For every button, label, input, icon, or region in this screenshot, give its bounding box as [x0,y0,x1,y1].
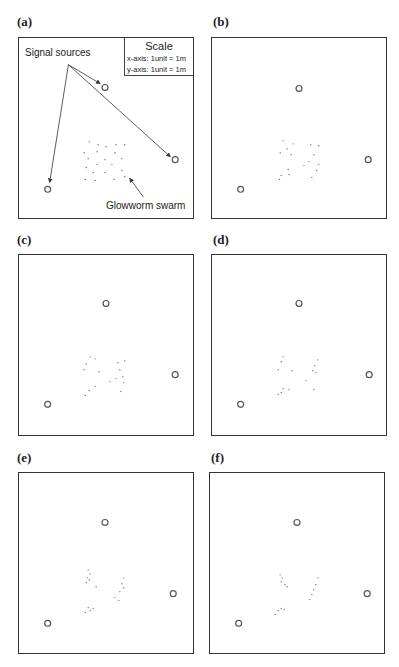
signal-source-markers [238,85,371,192]
panel-b-plot [212,38,386,218]
signal-source-markers [45,301,178,408]
panel-label-a: (a) [17,14,32,30]
glowworm-swarm [84,141,126,181]
panel-label-d: (d) [213,232,229,248]
arrows [50,65,171,197]
panel-f-plot [210,473,384,653]
panel-label-b: (b) [213,14,229,30]
panel-a: Signal sources Glowworm swarm Scale x-ax… [18,37,194,219]
panel-c-plot [19,255,193,435]
scale-box: Scale x-axis: 1unit = 1m y-axis: 1unit =… [124,38,193,76]
panel-label-e: (e) [17,450,31,466]
glowworm-swarm [84,356,126,396]
glowworm-swarm [85,569,125,613]
signal-source-markers [45,520,176,627]
glowworm-swarm [278,356,319,395]
panel-d-plot [212,255,386,435]
panel-e-plot [19,473,193,653]
signal-source-markers [236,520,370,627]
panel-c [18,254,194,436]
scale-x-axis: x-axis: 1unit = 1m [127,54,186,63]
panel-f [209,472,385,654]
scale-title: Scale [125,40,193,52]
signal-source-markers [238,301,372,408]
panel-label-f: (f) [211,450,224,466]
scale-y-axis: y-axis: 1unit = 1m [127,65,186,74]
panel-label-c: (c) [17,232,31,248]
panel-e [18,472,194,654]
panel-d [211,254,387,436]
glowworm-swarm-label: Glowworm swarm [106,200,185,211]
panel-b [211,37,387,219]
glowworm-swarm [275,574,319,615]
signal-source-markers [45,85,178,193]
signal-sources-label: Signal sources [25,47,91,58]
glowworm-swarm [279,140,320,180]
